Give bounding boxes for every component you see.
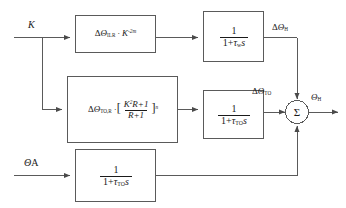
summing-junction-circle — [286, 101, 309, 124]
signal-label-delta-theta-to: ΔΘTO — [252, 86, 271, 96]
input-label-theta-a: ΘA — [24, 157, 38, 168]
diagram-vector-layer — [0, 0, 346, 208]
input-label-k: K — [28, 19, 35, 30]
output-label-theta-h: ΘH — [311, 92, 321, 102]
block-diagram-canvas: K ΘA ΔΘILR · K-2m 1 1+τws ΔΘTO,R ·[ K2R+… — [0, 0, 346, 208]
signal-label-delta-theta-h: ΔΘH — [272, 22, 288, 32]
block-rect-tau-to-middle — [204, 91, 264, 139]
block-rect-ilr-gain — [76, 16, 156, 53]
block-rect-tau-w — [204, 12, 264, 62]
block-rect-tau-to-bottom — [76, 150, 156, 202]
block-rect-to-r-gain — [68, 77, 178, 143]
